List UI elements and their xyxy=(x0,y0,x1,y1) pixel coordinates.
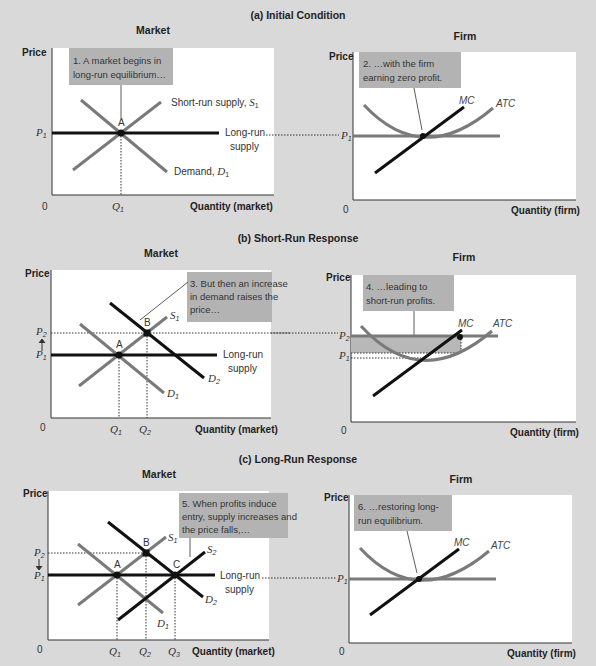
p1-label: P1 xyxy=(338,349,350,362)
p1-label: P1 xyxy=(35,126,47,139)
y-axis-label: Price xyxy=(324,492,349,503)
x-axis-label: Quantity (market) xyxy=(195,424,278,435)
y-axis-label: Price xyxy=(23,488,48,499)
origin-label: 0 xyxy=(339,646,345,657)
demand-label: Demand, D1 xyxy=(174,165,229,178)
point-b-label: B xyxy=(144,317,151,328)
p2-label: P2 xyxy=(35,325,47,338)
equilibrium-point-a xyxy=(116,352,123,359)
point-a-label: A xyxy=(114,559,121,570)
lrs-label-2: supply xyxy=(225,584,254,595)
origin-label: 0 xyxy=(343,204,349,215)
mc-label: MC xyxy=(459,95,475,106)
firm-title: Firm xyxy=(453,251,476,263)
firm-equilibrium-point xyxy=(416,576,422,582)
y-axis-label: Price xyxy=(25,268,50,279)
panel-a: (a) Initial Condition Market Price Quant… xyxy=(22,9,580,216)
callout-3-line-1: 3. But then an increase xyxy=(190,278,288,289)
atc-label: ATC xyxy=(495,98,516,109)
panel-a-firm: Firm Price Quantity (firm) 0 2. …with th… xyxy=(329,30,580,216)
market-title: Market xyxy=(142,468,176,480)
q2-label: Q2 xyxy=(139,645,151,658)
srs-label: Short-run supply, S1 xyxy=(171,96,259,109)
mc-label: MC xyxy=(454,537,470,548)
callout-2-line-2: earning zero profit. xyxy=(363,72,442,83)
callout-1-line-2: long-run equilibrium… xyxy=(73,69,166,80)
point-a-label: A xyxy=(116,339,123,350)
origin-label: 0 xyxy=(37,644,43,655)
y-axis-label: Price xyxy=(22,47,47,58)
atc-label: ATC xyxy=(490,540,511,551)
origin-label: 0 xyxy=(40,422,46,433)
point-b-label: B xyxy=(143,537,150,548)
panel-a-title: (a) Initial Condition xyxy=(250,9,345,21)
p1-label: P1 xyxy=(33,569,45,582)
p1-label: P1 xyxy=(35,348,47,361)
lrs-label-1: Long-run xyxy=(223,349,263,360)
q3-label: Q3 xyxy=(168,645,180,658)
profit-max-point xyxy=(457,334,463,340)
callout-6-line-2: run equilibrium. xyxy=(358,515,423,526)
panel-c-firm: Firm Price Quantity (firm) 0 6. …restori… xyxy=(324,473,576,659)
callout-5-line-1: 5. When profits induce xyxy=(182,498,277,509)
short-run-point-b xyxy=(143,550,150,557)
x-axis-label: Quantity (market) xyxy=(192,646,275,657)
point-c-label: C xyxy=(173,559,180,570)
panel-b-title: (b) Short-Run Response xyxy=(238,232,359,244)
p1-label: P1 xyxy=(340,129,352,142)
firm-equilibrium-point xyxy=(420,133,426,139)
point-a-label: A xyxy=(118,117,125,128)
p1-label: P1 xyxy=(336,572,348,585)
callout-3-line-3: price… xyxy=(190,304,220,315)
market-title: Market xyxy=(136,24,170,36)
callout-1-line-1: 1. A market begins in xyxy=(73,55,161,66)
panel-b: (b) Short-Run Response Market Price Quan… xyxy=(25,232,579,438)
x-axis-label: Quantity (firm) xyxy=(511,205,580,216)
y-axis-label: Price xyxy=(326,272,351,283)
p2-label: P2 xyxy=(338,329,350,342)
equilibrium-point-a xyxy=(118,130,125,137)
x-axis-label: Quantity (firm) xyxy=(510,427,579,438)
lrs-label-2: supply xyxy=(228,363,257,374)
x-axis-label: Quantity (market) xyxy=(190,201,273,212)
origin-label: 0 xyxy=(42,201,48,212)
q1-label: Q1 xyxy=(112,200,124,213)
market-title: Market xyxy=(144,247,178,259)
lrs-label-1: Long-run xyxy=(225,127,265,138)
callout-6-line-1: 6. …restoring long- xyxy=(358,501,439,512)
mc-label: MC xyxy=(458,318,474,329)
panel-a-market: Market Price Quantity (market) 0 1. A ma… xyxy=(22,24,274,213)
callout-5-line-3: the price falls,… xyxy=(182,524,250,535)
panel-c-title: (c) Long-Run Response xyxy=(239,453,358,465)
callout-2-line-1: 2. …with the firm xyxy=(363,58,434,69)
equilibrium-point-a xyxy=(114,572,121,579)
q1-label: Q1 xyxy=(110,423,122,436)
callout-4-line-1: 4. …leading to xyxy=(366,281,427,292)
lrs-label-1: Long-run xyxy=(220,570,260,581)
x-axis-label: Quantity (firm) xyxy=(507,648,576,659)
long-run-equilibrium-diagram: .lbl { font-family:"Liberation Sans", sa… xyxy=(0,0,596,666)
short-run-point-b xyxy=(144,330,151,337)
atc-label: ATC xyxy=(492,318,513,329)
new-equilibrium-point-c xyxy=(172,572,179,579)
origin-label: 0 xyxy=(341,425,347,436)
q2-label: Q2 xyxy=(139,423,151,436)
panel-b-firm: Firm Price Quantity (firm) 0 4. …leading… xyxy=(326,251,579,438)
callout-4-line-2: short-run profits. xyxy=(366,295,435,306)
panel-c-market: Market Price Quantity (market) 0 5. When… xyxy=(23,468,297,658)
firm-title: Firm xyxy=(454,30,477,42)
callout-3-line-2: in demand raises the xyxy=(190,291,278,302)
panel-c: (c) Long-Run Response Market Price Quant… xyxy=(23,453,576,659)
panel-b-market: Market Price Quantity (market) 0 3. But … xyxy=(25,247,290,436)
lrs-label-2: supply xyxy=(230,141,259,152)
y-axis-label: Price xyxy=(329,51,354,62)
callout-5-line-2: entry, supply increases and xyxy=(182,511,297,522)
firm-title: Firm xyxy=(450,473,473,485)
q1-label: Q1 xyxy=(109,645,121,658)
p2-label: P2 xyxy=(33,546,45,559)
